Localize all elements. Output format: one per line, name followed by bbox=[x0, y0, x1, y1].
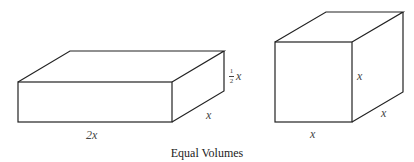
prism-length-label: 2x bbox=[86, 129, 97, 141]
prism-depth-label: x bbox=[206, 109, 211, 121]
height-variable-label: x bbox=[236, 70, 241, 82]
cube-width-label: x bbox=[310, 128, 315, 140]
height-fraction: 1 2 bbox=[229, 68, 234, 85]
rectangular-prism bbox=[18, 51, 224, 122]
cube-depth-label: x bbox=[381, 107, 386, 119]
fraction-denominator: 2 bbox=[229, 78, 234, 85]
fraction-numerator: 1 bbox=[229, 68, 234, 75]
diagram-caption: Equal Volumes bbox=[0, 146, 414, 161]
cube-height-label: x bbox=[357, 70, 362, 82]
diagram-canvas bbox=[0, 0, 414, 162]
